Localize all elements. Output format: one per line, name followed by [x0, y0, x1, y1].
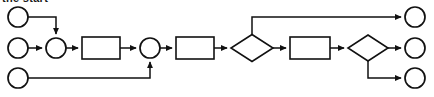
node-merge-node[interactable] — [140, 38, 160, 58]
node-task[interactable] — [82, 37, 120, 59]
node-decision[interactable] — [231, 35, 273, 62]
workflow-diagram-canvas: the start — [0, 0, 434, 97]
node-decision[interactable] — [348, 35, 388, 61]
node-start-event[interactable] — [8, 68, 28, 88]
flow-edge — [28, 17, 56, 34]
node-end-event[interactable] — [405, 68, 425, 88]
flow-edge — [368, 61, 401, 78]
node-start-event[interactable] — [8, 38, 28, 58]
node-merge-node[interactable] — [46, 38, 66, 58]
node-end-event[interactable] — [405, 38, 425, 58]
node-task[interactable] — [176, 37, 214, 59]
flowchart-svg — [0, 0, 434, 97]
node-task[interactable] — [290, 37, 330, 59]
node-end-event[interactable] — [405, 7, 425, 27]
node-start-event[interactable] — [8, 7, 28, 27]
flow-edge — [252, 17, 401, 34]
flow-edge — [28, 62, 150, 78]
